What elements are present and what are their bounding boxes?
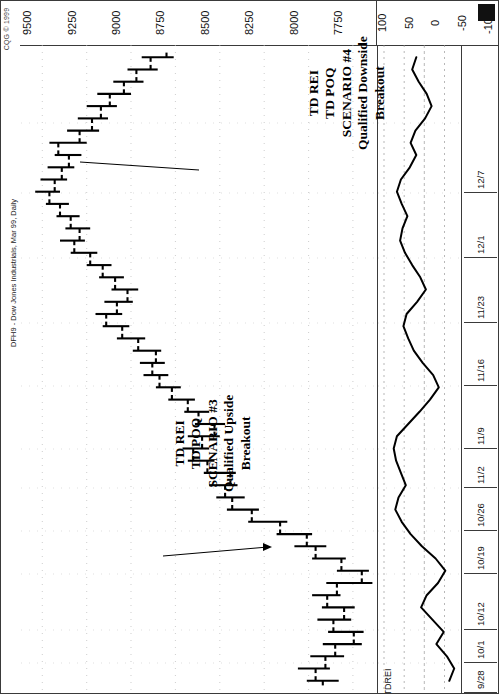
tdrei-line-canvas [378,45,462,693]
date-tick-10-19: 10/19 [464,531,497,574]
date-tick-12-1: 12/1 [464,193,497,258]
price-tick-9500: 9500 [21,3,61,43]
annotation-line: Qualified Downside [355,36,371,150]
annotation-line: TD POQ [188,395,204,492]
date-tick-10-1: 10/1 [464,630,497,663]
date-tick-10-12: 10/12 [464,574,497,630]
corner-marker-icon [478,4,495,21]
scale-band: 95009250900087508500825080007750 100500-… [20,1,498,46]
price-tick-9000: 9000 [110,3,150,43]
date-tick-11-2: 11/2 [464,449,497,488]
indicator-plot-area[interactable]: TDREI [377,45,462,693]
date-axis[interactable]: 12/712/111/2311/1611/911/210/2610/1910/1… [461,45,499,693]
annotation-line: TD REI [306,36,322,150]
annotation-line: SCENARIO #3 [205,395,221,492]
date-tick-10-26: 10/26 [464,488,497,531]
price-tick-8750: 8750 [154,3,194,43]
date-tick-11-16: 11/16 [464,323,497,386]
cqg-copyright-label: CQG © 1999 [3,1,17,57]
price-tick-8500: 8500 [199,3,239,43]
annotation-scenario-3: TD REITD POQSCENARIO #3Qualified UpsideB… [172,395,254,492]
annotation-line: TD REI [172,395,188,492]
annotation-line: Breakout [238,395,254,492]
price-tick-8250: 8250 [243,3,283,43]
annotation-line: Qualified Upside [221,395,237,492]
cqg-chart-window: CQG © 1999 DFH9 - Dow Jones Industrials,… [0,0,500,695]
date-tick-11-9: 11/9 [464,386,497,449]
annotation-line: Breakout [372,36,388,150]
date-tick-9-28: 9/28 [464,663,497,693]
date-tick-12-7: 12/7 [464,123,497,193]
annotation-scenario-4: TD REITD POQSCENARIO #4Qualified Downsid… [306,36,388,150]
annotation-line: TD POQ [322,36,338,150]
price-tick-9250: 9250 [66,3,106,43]
date-tick-11-23: 11/23 [464,258,497,323]
indicator-name-label: TDREI [383,659,397,693]
annotation-line: SCENARIO #4 [339,36,355,150]
